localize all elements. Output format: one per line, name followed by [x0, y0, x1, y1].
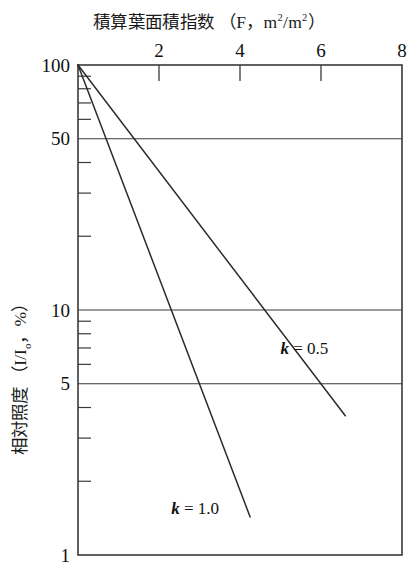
chart-title-comma: ， — [246, 12, 263, 32]
chart-title-paren-open: （ — [219, 12, 236, 32]
series-annotation-value-0: = 0.5 — [289, 339, 328, 358]
y-axis-title-i0: I — [10, 349, 30, 355]
y-tick-label-10: 10 — [51, 300, 70, 321]
chart-title: 積算葉面積指数 （F，m2/m2） — [0, 8, 418, 33]
gridlines-group — [78, 139, 402, 384]
series-annotation-value-1: = 1.0 — [180, 499, 219, 518]
x-tick-labels-group: 2468 — [154, 40, 407, 61]
y-axis-title-space — [10, 383, 30, 387]
y-tick-label-5: 5 — [61, 373, 71, 394]
y-axis-title-paren-close: ） — [10, 295, 30, 312]
x-tick-label-4: 4 — [235, 40, 245, 61]
y-tick-marks-group — [78, 76, 91, 481]
y-axis-title-i: I — [10, 360, 30, 366]
y-axis-title-paren-open: （ — [10, 366, 30, 383]
chart-title-unit-den: m — [288, 12, 302, 32]
y-tick-labels-group: 100501051 — [42, 55, 71, 566]
chart-plot-area: 100501051 2468 k = 0.5k = 1.0 — [0, 0, 418, 570]
x-tick-label-2: 2 — [154, 40, 164, 61]
chart-title-main: 積算葉面積指数 — [93, 12, 214, 32]
y-axis-title-slash: / — [10, 355, 30, 360]
data-line-series-0 — [78, 65, 345, 416]
chart-figure: 積算葉面積指数 （F，m2/m2） 相対照度 （I/Io，%） 10050105… — [0, 0, 418, 570]
y-tick-label-100: 100 — [42, 55, 71, 76]
data-line-series-1 — [78, 65, 250, 517]
y-axis-title-percent: % — [10, 312, 30, 327]
y-axis-title-comma: ， — [10, 327, 30, 344]
data-curves-group — [78, 65, 345, 517]
y-axis-title: 相対照度 （I/Io，%） — [6, 295, 33, 455]
chart-title-unit-num: m — [264, 12, 278, 32]
x-tick-label-6: 6 — [316, 40, 326, 61]
chart-title-symbol: F — [236, 12, 246, 32]
series-annotation-0: k = 0.5 — [281, 339, 329, 358]
x-tick-label-8: 8 — [397, 40, 407, 61]
series-annotations-group: k = 0.5k = 1.0 — [171, 339, 328, 518]
y-axis-title-i0-sub: o — [21, 344, 33, 350]
y-tick-label-1: 1 — [61, 545, 71, 566]
y-tick-label-50: 50 — [51, 128, 70, 149]
series-annotation-1: k = 1.0 — [171, 499, 219, 518]
y-axis-title-main: 相対照度 — [10, 387, 30, 455]
chart-title-paren-close: ） — [308, 12, 325, 32]
x-tick-marks-group — [159, 65, 321, 81]
